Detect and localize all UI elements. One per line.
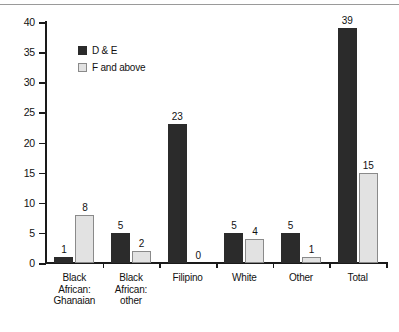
bar-value-label: 23 [172, 111, 183, 122]
x-axis-group-tick [159, 262, 161, 268]
legend-item: F and above [78, 61, 145, 74]
x-axis-category-label: Filipino [173, 272, 203, 284]
x-axis-group-tick [216, 262, 218, 268]
chart-legend: D & E F and above [78, 44, 145, 78]
y-axis-tick-label: 35 [24, 46, 35, 58]
bar-value-label: 8 [82, 202, 87, 213]
x-axis-group-tick [329, 262, 331, 268]
x-axis-category-label: White [232, 272, 257, 284]
bar-value-label: 5 [288, 220, 293, 231]
x-axis-end-tick [386, 262, 388, 268]
bar-value-label: 2 [139, 238, 144, 249]
bar-chart-figure: 0510152025303540185223054513915 D & E F … [0, 0, 399, 332]
legend-swatch-f-and-above [78, 63, 87, 72]
y-axis-tick-label: 5 [29, 227, 35, 239]
top-divider [0, 4, 399, 5]
legend-label-f-and-above: F and above [92, 62, 145, 73]
bar-d-and-e [281, 233, 300, 263]
bar-value-label: 39 [342, 15, 353, 26]
bar-value-label: 0 [195, 250, 200, 261]
x-axis-category-label: Black African: Ghanaian [53, 272, 95, 307]
y-axis-tick-label: 0 [29, 257, 35, 269]
bar-value-label: 5 [118, 220, 123, 231]
legend-label-d-and-e: D & E [92, 45, 117, 56]
bar-d-and-e [54, 257, 73, 263]
y-axis-tick [39, 82, 46, 84]
y-axis-tick [39, 143, 46, 145]
legend-item: D & E [78, 44, 145, 57]
bar-value-label: 1 [309, 244, 314, 255]
bar-f-and-above [132, 251, 151, 263]
bar-d-and-e [111, 233, 130, 263]
bar-f-and-above [302, 257, 321, 263]
bar-value-label: 15 [363, 160, 374, 171]
y-axis-tick-label: 30 [24, 76, 35, 88]
x-axis-category-label: Black African: other [115, 272, 147, 307]
bar-d-and-e [168, 124, 187, 263]
y-axis-tick-label: 25 [24, 106, 35, 118]
x-axis-group-tick [273, 262, 275, 268]
x-axis-group-tick [103, 262, 105, 268]
bar-d-and-e [224, 233, 243, 263]
bar-f-and-above [245, 239, 264, 263]
y-axis-tick [39, 173, 46, 175]
bar-f-and-above [359, 173, 378, 263]
y-axis-tick [39, 263, 46, 265]
x-axis-category-label: Total [348, 272, 368, 284]
bar-value-label: 5 [231, 220, 236, 231]
y-axis-tick [39, 112, 46, 114]
bar-value-label: 1 [61, 244, 66, 255]
bar-value-label: 4 [252, 226, 257, 237]
y-axis-tick [39, 52, 46, 54]
y-axis-tick-label: 15 [24, 167, 35, 179]
bar-d-and-e [338, 28, 357, 263]
bar-f-and-above [75, 215, 94, 263]
y-axis-tick-label: 40 [24, 16, 35, 28]
y-axis-tick [39, 233, 46, 235]
y-axis-tick-label: 10 [24, 197, 35, 209]
x-axis-category-label: Other [289, 272, 313, 284]
y-axis-tick [39, 22, 46, 24]
legend-swatch-d-and-e [78, 46, 87, 55]
y-axis-tick [39, 203, 46, 205]
y-axis-tick-label: 20 [24, 137, 35, 149]
